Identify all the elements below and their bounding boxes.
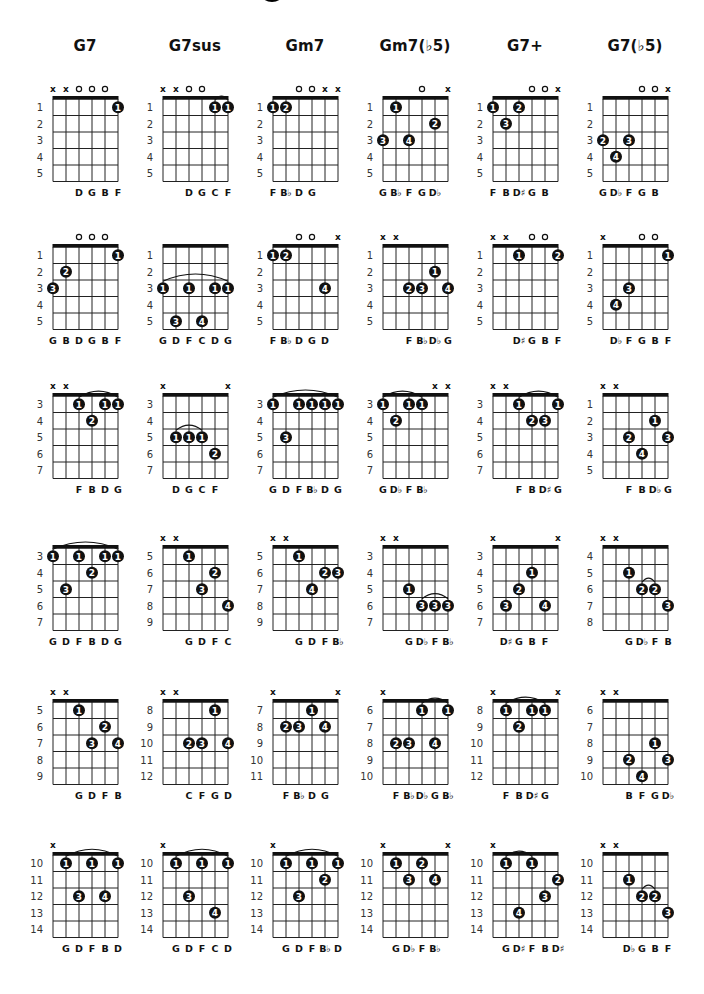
svg-text:x: x — [270, 840, 276, 850]
svg-text:3: 3 — [367, 399, 373, 410]
svg-text:G: G — [75, 790, 83, 801]
svg-text:2: 2 — [37, 119, 43, 130]
svg-text:1: 1 — [477, 250, 483, 261]
svg-text:1: 1 — [212, 284, 218, 294]
svg-text:1: 1 — [270, 103, 276, 113]
svg-text:2: 2 — [516, 722, 522, 732]
svg-text:3: 3 — [665, 433, 671, 443]
svg-text:x: x — [63, 687, 69, 697]
svg-text:2: 2 — [283, 251, 289, 261]
column-title: G7(♭5) — [580, 37, 690, 55]
svg-text:8: 8 — [367, 738, 373, 749]
svg-text:10: 10 — [360, 858, 373, 869]
svg-text:5: 5 — [257, 168, 263, 179]
svg-text:G: G — [334, 484, 342, 495]
svg-text:5: 5 — [587, 465, 593, 476]
svg-text:F: F — [270, 187, 277, 198]
chord-diagram: 12345xx12FB♭DG — [243, 71, 353, 201]
svg-text:F: F — [115, 335, 122, 346]
svg-text:G: G — [638, 943, 646, 954]
svg-text:x: x — [613, 533, 619, 543]
svg-text:4: 4 — [445, 284, 451, 294]
svg-text:5: 5 — [37, 584, 43, 595]
svg-text:13: 13 — [30, 908, 43, 919]
svg-text:B♭: B♭ — [280, 335, 292, 346]
svg-text:1: 1 — [529, 568, 535, 578]
svg-text:1: 1 — [503, 706, 509, 716]
svg-text:G: G — [392, 943, 400, 954]
svg-text:9: 9 — [257, 617, 263, 628]
svg-text:13: 13 — [470, 908, 483, 919]
svg-text:x: x — [445, 840, 451, 850]
svg-text:1: 1 — [626, 568, 632, 578]
svg-text:x: x — [490, 840, 496, 850]
svg-text:3: 3 — [257, 135, 263, 146]
svg-text:F: F — [542, 636, 549, 647]
svg-text:10: 10 — [580, 858, 593, 869]
svg-text:9: 9 — [147, 617, 153, 628]
chord-diagram: 7891011xx1234FB♭DG — [243, 674, 353, 804]
svg-text:x: x — [50, 84, 56, 94]
svg-text:G: G — [185, 484, 193, 495]
svg-text:1: 1 — [587, 399, 593, 410]
svg-text:3: 3 — [419, 284, 425, 294]
svg-text:D: D — [88, 790, 96, 801]
svg-text:4: 4 — [477, 568, 483, 579]
svg-text:B♭: B♭ — [280, 187, 292, 198]
svg-text:B♭: B♭ — [416, 335, 428, 346]
svg-text:x: x — [50, 687, 56, 697]
svg-text:4: 4 — [587, 449, 593, 460]
svg-text:8: 8 — [257, 601, 263, 612]
svg-text:B♭: B♭ — [442, 790, 454, 801]
svg-text:D: D — [224, 943, 232, 954]
svg-text:F: F — [309, 943, 316, 954]
svg-text:D: D — [308, 636, 316, 647]
svg-text:1: 1 — [199, 859, 205, 869]
svg-text:5: 5 — [587, 316, 593, 327]
chord-diagram: 12345x123FBD♯GB — [463, 71, 573, 201]
svg-text:G: G — [62, 943, 70, 954]
svg-text:5: 5 — [147, 316, 153, 327]
svg-text:4: 4 — [432, 875, 438, 885]
svg-text:8: 8 — [37, 755, 43, 766]
svg-text:D♯: D♯ — [552, 943, 564, 954]
svg-text:F: F — [652, 636, 659, 647]
svg-text:1: 1 — [419, 706, 425, 716]
svg-text:1: 1 — [445, 706, 451, 716]
svg-text:G: G — [431, 790, 439, 801]
chord-diagram: 12345x234GD♭FGB — [573, 71, 683, 201]
svg-text:G: G — [269, 484, 277, 495]
svg-text:2: 2 — [652, 892, 658, 902]
svg-text:D: D — [308, 790, 316, 801]
svg-text:x: x — [380, 840, 386, 850]
svg-text:B: B — [651, 335, 658, 346]
chord-diagram: 678910x11234FB♭D♭GB♭ — [353, 674, 463, 804]
svg-text:D: D — [75, 187, 83, 198]
svg-text:5: 5 — [257, 316, 263, 327]
svg-text:1: 1 — [63, 859, 69, 869]
svg-text:B♭: B♭ — [429, 943, 441, 954]
svg-text:1: 1 — [212, 706, 218, 716]
svg-text:9: 9 — [477, 722, 483, 733]
svg-text:B: B — [651, 187, 658, 198]
svg-text:D♭: D♭ — [610, 335, 622, 346]
svg-text:11: 11 — [30, 875, 43, 886]
svg-text:D: D — [172, 484, 180, 495]
svg-text:x: x — [613, 840, 619, 850]
svg-text:x: x — [270, 533, 276, 543]
svg-text:12: 12 — [470, 891, 483, 902]
svg-text:11: 11 — [250, 875, 263, 886]
svg-text:2: 2 — [89, 568, 95, 578]
svg-text:G: G — [88, 335, 96, 346]
chord-diagram: 34567xx1333GD♭FB♭ — [353, 520, 463, 650]
svg-text:x: x — [322, 84, 328, 94]
svg-text:11: 11 — [140, 875, 153, 886]
svg-text:F: F — [665, 943, 672, 954]
svg-text:3: 3 — [542, 892, 548, 902]
svg-text:7: 7 — [257, 465, 263, 476]
svg-text:9: 9 — [147, 722, 153, 733]
svg-text:G: G — [88, 187, 96, 198]
svg-text:F: F — [225, 187, 232, 198]
svg-text:4: 4 — [309, 585, 315, 595]
svg-text:x: x — [490, 687, 496, 697]
